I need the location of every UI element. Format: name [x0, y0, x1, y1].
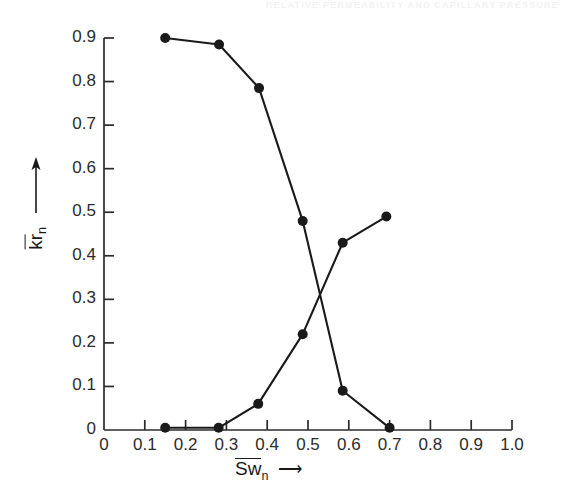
data-point-marker: [338, 386, 348, 396]
y-axis-tick-label: 0.3: [50, 288, 96, 308]
x-axis-tick-label: 0: [84, 435, 124, 455]
y-axis-tick-label: 0.8: [50, 71, 96, 91]
y-axis-tick-label: 0.1: [50, 375, 96, 395]
data-series-group: [160, 33, 394, 433]
y-axis-tick-label: 0.4: [50, 245, 96, 265]
axes-group: [104, 38, 512, 430]
x-axis-tick-label: 0.3: [206, 435, 246, 455]
series-line-ascending: [165, 217, 386, 428]
x-axis-tick-label: 0.9: [451, 435, 491, 455]
data-point-marker: [254, 83, 264, 93]
figure-container: RELATIVE PERMEABILITY AND CAPILLARY PRES…: [0, 0, 567, 498]
series-line-descending: [165, 38, 389, 428]
data-point-marker: [160, 423, 170, 433]
data-point-marker: [214, 423, 224, 433]
data-point-marker: [298, 216, 308, 226]
y-axis-tick-label: 0.7: [50, 114, 96, 134]
y-axis-tick-label: 0.9: [50, 27, 96, 47]
x-axis-tick-label: 1.0: [492, 435, 532, 455]
data-point-marker: [214, 40, 224, 50]
y-axis-tick-label: 0.5: [50, 201, 96, 221]
x-axis-tick-label: 0.6: [329, 435, 369, 455]
data-point-marker: [160, 33, 170, 43]
x-axis-tick-label: 0.5: [288, 435, 328, 455]
y-axis-tick-label: 0.2: [50, 332, 96, 352]
data-point-marker: [338, 238, 348, 248]
data-point-marker: [298, 329, 308, 339]
x-axis-tick-label: 0.8: [410, 435, 450, 455]
y-axis-tick-label: 0.6: [50, 158, 96, 178]
x-axis-tick-label: 0.7: [370, 435, 410, 455]
x-axis-tick-label: 0.1: [125, 435, 165, 455]
data-point-marker: [381, 212, 391, 222]
data-point-marker: [385, 423, 395, 433]
x-axis-tick-label: 0.4: [247, 435, 287, 455]
x-axis-tick-label: 0.2: [166, 435, 206, 455]
data-point-marker: [253, 399, 263, 409]
